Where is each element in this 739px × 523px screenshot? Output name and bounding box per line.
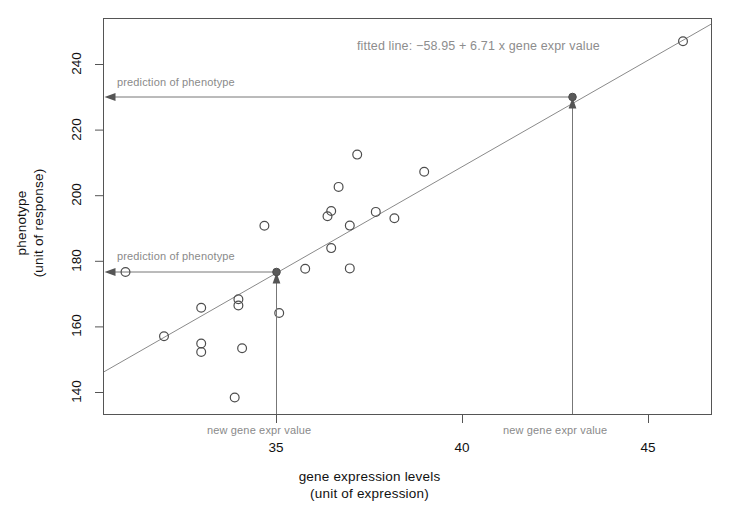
data-point (679, 37, 688, 46)
data-point (327, 244, 336, 253)
y-axis-title-line2: (unit of response) (30, 133, 47, 313)
prediction-upper-point (569, 93, 577, 101)
prediction-lower-point (273, 268, 281, 276)
prediction-lower-vertical-arrow (273, 273, 281, 415)
data-point (420, 167, 429, 176)
data-point (390, 214, 399, 223)
x-tick-label-40: 40 (442, 440, 482, 455)
regression-scatter-figure: fitted line: −58.95 + 6.71 x gene expr v… (0, 0, 739, 523)
data-point (371, 208, 380, 217)
data-point (238, 344, 247, 353)
y-tick-label-180: 180 (69, 241, 84, 281)
x-axis-title-line1: gene expression levels (0, 468, 739, 485)
data-point (353, 150, 362, 159)
data-point (345, 221, 354, 230)
prediction-upper-vertical-arrow (569, 98, 577, 415)
y-tick-label-220: 220 (69, 110, 84, 150)
prediction-upper-horizontal-arrow (105, 93, 573, 101)
y-axis-ticks (95, 65, 104, 393)
data-point (334, 183, 343, 192)
scatter-points (160, 37, 688, 402)
x-tick-label-35: 35 (256, 440, 296, 455)
new-gene-expr-value-right-label: new gene expr value (503, 424, 607, 436)
y-tick-label-240: 240 (69, 44, 84, 84)
data-point (230, 393, 239, 402)
y-tick-label-140: 140 (69, 372, 84, 412)
data-point (301, 264, 310, 273)
data-point (234, 301, 243, 310)
data-point (197, 303, 206, 312)
new-gene-expr-value-left-label: new gene expr value (207, 424, 311, 436)
x-axis-ticks (277, 415, 649, 424)
prediction-upper-label: prediction of phenotype (117, 76, 235, 88)
x-axis-title-line2: (unit of expression) (0, 485, 739, 502)
data-point (197, 339, 206, 348)
data-point (345, 264, 354, 273)
y-tick-label-160: 160 (69, 306, 84, 346)
y-axis-title: phenotype (unit of response) (13, 133, 47, 313)
prediction-lower-horizontal-arrow (105, 268, 277, 277)
y-tick-label-200: 200 (69, 175, 84, 215)
data-point (260, 221, 269, 230)
prediction-lower-label: prediction of phenotype (117, 250, 235, 262)
data-point (197, 348, 206, 357)
y-axis-title-line1: phenotype (13, 133, 30, 313)
fitted-line-equation-label: fitted line: −58.95 + 6.71 x gene expr v… (357, 39, 600, 53)
x-tick-label-45: 45 (628, 440, 668, 455)
x-axis-title: gene expression levels (unit of expressi… (0, 468, 739, 502)
